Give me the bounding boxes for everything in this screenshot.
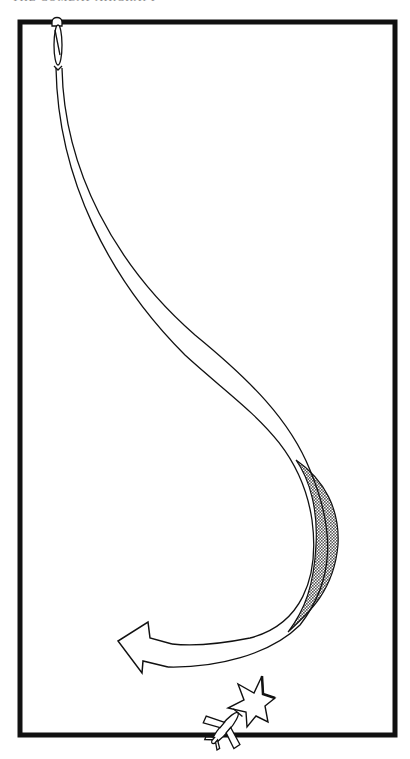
diagram-frame xyxy=(20,22,395,735)
flight-path-ribbon-edge-right xyxy=(62,68,328,667)
pull-out-arrow xyxy=(118,622,172,673)
attacking-aircraft-icon xyxy=(52,18,62,71)
maneuver-diagram xyxy=(0,0,410,759)
flight-path-ribbon-edge-left xyxy=(56,68,314,645)
